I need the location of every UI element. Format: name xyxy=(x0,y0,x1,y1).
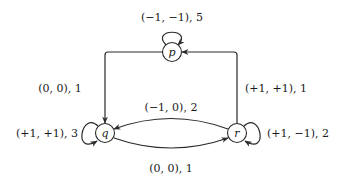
edge-q-to-r xyxy=(114,138,228,148)
state-diagram: p q r (−1, −1), 5 (0, 0), 1 (+1, +1), 1 … xyxy=(0,0,343,182)
svg-text:q: q xyxy=(101,127,108,140)
svg-text:p: p xyxy=(168,46,175,59)
label-r-to-q: (−1, 0), 2 xyxy=(145,101,198,114)
label-p-to-q: (0, 0), 1 xyxy=(38,82,82,95)
svg-text:r: r xyxy=(234,127,240,140)
label-p-self: (−1, −1), 5 xyxy=(141,11,203,24)
node-p: p xyxy=(163,43,182,62)
node-r: r xyxy=(228,124,247,143)
node-q: q xyxy=(96,124,115,143)
label-q-to-r: (0, 0), 1 xyxy=(149,162,193,175)
label-r-self: (+1, −1), 2 xyxy=(267,127,329,140)
label-r-to-p: (+1, +1), 1 xyxy=(245,82,307,95)
label-q-self: (+1, +1), 3 xyxy=(16,127,78,140)
edge-r-to-q xyxy=(114,119,228,130)
